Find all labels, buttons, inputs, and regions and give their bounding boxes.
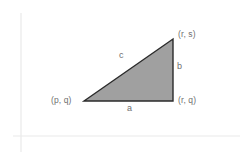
side-label-a: a: [127, 104, 132, 113]
vertex-label-bottom-right: (r, q): [178, 96, 196, 105]
triangle-diagram-graphic: [0, 0, 252, 162]
side-label-c: c: [119, 51, 124, 60]
right-triangle-shape: [84, 39, 173, 101]
side-label-b: b: [177, 62, 182, 71]
vertex-label-top-right: (r, s): [178, 30, 196, 39]
diagram-canvas: (r, s) (r, q) (p, q) a b c: [0, 0, 252, 162]
vertex-label-bottom-left: (p, q): [51, 96, 71, 105]
